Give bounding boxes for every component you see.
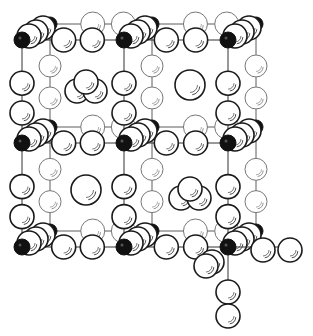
light-atom — [74, 70, 98, 94]
light-atom — [216, 175, 240, 199]
light-atom — [194, 254, 218, 278]
dark-atom-highlight — [121, 140, 124, 143]
lattice-svg — [0, 0, 313, 336]
light-atom — [184, 28, 208, 52]
light-atom — [80, 235, 104, 259]
light-atom — [112, 71, 136, 95]
light-atom — [245, 55, 267, 77]
light-atom — [184, 131, 208, 155]
light-atom — [245, 87, 267, 109]
light-atom — [52, 131, 76, 155]
light-atom — [10, 101, 34, 125]
dark-atom — [14, 32, 30, 48]
light-atom — [216, 280, 240, 304]
light-atom — [52, 235, 76, 259]
light-atom — [178, 177, 202, 201]
dark-atom — [116, 32, 132, 48]
light-atom — [141, 55, 163, 77]
light-atom — [245, 191, 267, 213]
dark-atom — [220, 135, 236, 151]
light-atom — [245, 158, 267, 180]
light-atom — [216, 71, 240, 95]
dark-atom-highlight — [225, 37, 228, 40]
light-atom — [52, 28, 76, 52]
light-atom — [112, 205, 136, 229]
light-atom — [39, 191, 61, 213]
light-atom — [80, 28, 104, 52]
light-atom — [10, 205, 34, 229]
light-atom — [80, 131, 104, 155]
dark-atom — [14, 239, 30, 255]
light-atom — [112, 175, 136, 199]
dark-atom-highlight — [225, 244, 228, 247]
light-atom — [39, 87, 61, 109]
dark-atom-highlight — [225, 140, 228, 143]
light-atom — [154, 235, 178, 259]
dark-atom — [220, 239, 236, 255]
crystal-structure-diagram — [0, 0, 313, 336]
light-atom — [216, 205, 240, 229]
dark-atom — [116, 239, 132, 255]
light-atom — [216, 101, 240, 125]
dark-atom-highlight — [121, 37, 124, 40]
light-atom — [175, 70, 205, 100]
light-atom — [71, 175, 101, 205]
light-atom — [216, 304, 240, 328]
light-atom — [141, 191, 163, 213]
light-atom — [154, 131, 178, 155]
dark-atom-highlight — [19, 244, 22, 247]
light-atom — [251, 238, 275, 262]
light-atom — [10, 175, 34, 199]
light-atom — [112, 101, 136, 125]
dark-atom-highlight — [19, 140, 22, 143]
dark-atom-highlight — [19, 37, 22, 40]
light-atom — [10, 71, 34, 95]
dark-atom — [14, 135, 30, 151]
light-atom — [278, 238, 302, 262]
light-atom — [39, 55, 61, 77]
light-atom — [141, 158, 163, 180]
light-atom — [141, 87, 163, 109]
light-atom — [39, 158, 61, 180]
light-atom — [154, 28, 178, 52]
dark-atom — [220, 32, 236, 48]
dark-atom-highlight — [121, 244, 124, 247]
dark-atom — [116, 135, 132, 151]
